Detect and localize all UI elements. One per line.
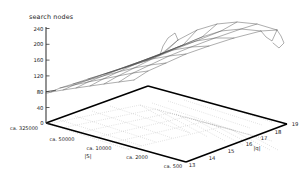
x-tick-label-500: ca. 500 (164, 163, 183, 169)
y-tick-label-80: 80 (37, 89, 44, 95)
x-axis-name: |S| (85, 153, 92, 160)
z-axis-name: |q| (254, 145, 261, 152)
z-tick-label-14: 14 (209, 155, 216, 161)
plot-title: search nodes (29, 13, 74, 21)
surface-plot-figure: search nodes 240 200 160 120 80 40 0 ca.… (0, 0, 307, 173)
y-tick-label-40: 40 (37, 105, 44, 111)
surface-wireframe (46, 22, 284, 93)
z-tick-label-16: 16 (246, 141, 253, 147)
base-plane-grid (48, 99, 278, 150)
x-tick-label-50000: ca. 50000 (50, 136, 75, 142)
z-tick-label-15: 15 (228, 148, 235, 154)
x-tick-label-2000: ca. 2000 (126, 154, 148, 160)
z-tick-label-17: 17 (261, 135, 268, 141)
y-tick-label-160: 160 (33, 57, 44, 63)
y-tick-label-0: 0 (40, 120, 44, 126)
z-tick-label-19: 19 (292, 121, 299, 127)
x-tick-label-10000: ca. 10000 (87, 145, 112, 151)
vertical-axis (46, 27, 56, 123)
z-tick-label-18: 18 (275, 129, 282, 135)
base-axis-outline (46, 86, 287, 162)
y-tick-label-240: 240 (33, 26, 44, 32)
y-tick-label-200: 200 (33, 41, 44, 47)
plot-canvas: search nodes 240 200 160 120 80 40 0 ca.… (0, 0, 307, 173)
z-tick-label-13: 13 (189, 162, 196, 168)
x-tick-label-325000: ca. 325000 (10, 125, 38, 131)
y-tick-label-120: 120 (33, 73, 44, 79)
